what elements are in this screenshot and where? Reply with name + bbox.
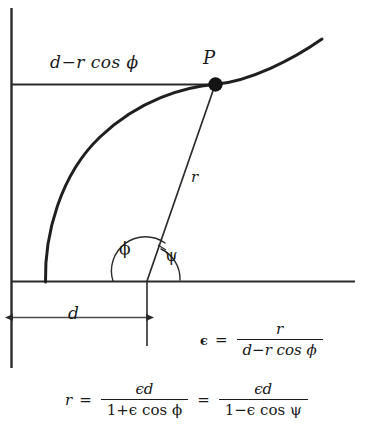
eq-epsilon-numerator: r [270, 322, 289, 339]
eq-r-second-numerator: ϵd [248, 382, 278, 399]
eq-epsilon-equals: = [215, 333, 228, 348]
eq-r-second-denominator: 1−ϵ cos ψ [219, 400, 308, 418]
eq-r-equals-2: = [197, 393, 210, 408]
label-radius-r: r [191, 170, 198, 185]
label-angle-psi: ψ [165, 248, 178, 264]
eq-epsilon-denominator: d−r cos ϕ [237, 340, 323, 358]
conic-curve [45, 39, 322, 282]
eq-epsilon-lhs: ϵ [200, 334, 208, 347]
equation-radius: r = ϵd 1+ϵ cos ϕ = ϵd 1−ϵ cos ψ [65, 382, 310, 418]
equation-eccentricity: ϵ = r d−r cos ϕ [200, 322, 325, 358]
eq-r-fraction-second: ϵd 1−ϵ cos ψ [219, 382, 308, 418]
eq-r-lhs: r [65, 393, 72, 408]
eq-r-first-numerator: ϵd [129, 382, 159, 399]
point-p-marker [208, 77, 222, 91]
eq-r-fraction-first: ϵd 1+ϵ cos ϕ [101, 382, 188, 418]
conic-geometry-figure: d−r cos ϕ P r ϕ ψ d ϵ = r d−r cos ϕ r = … [0, 0, 367, 433]
eq-r-equals: = [79, 393, 92, 408]
label-angle-phi: ϕ [119, 240, 131, 257]
focal-radius-line [147, 85, 215, 281]
label-point-p: P [203, 49, 215, 67]
label-horizontal-segment: d−r cos ϕ [50, 54, 139, 71]
eq-epsilon-fraction: r d−r cos ϕ [237, 322, 323, 358]
eq-r-first-denominator: 1+ϵ cos ϕ [101, 400, 188, 418]
label-distance-d: d [68, 305, 79, 322]
